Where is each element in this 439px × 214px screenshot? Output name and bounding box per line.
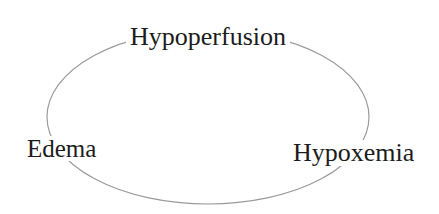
node-hypoperfusion: Hypoperfusion (126, 24, 290, 50)
cycle-diagram: Hypoperfusion Edema Hypoxemia (0, 0, 439, 214)
node-edema: Edema (23, 136, 100, 161)
cycle-connector-ellipse (47, 30, 369, 204)
node-hypoxemia: Hypoxemia (289, 140, 418, 166)
